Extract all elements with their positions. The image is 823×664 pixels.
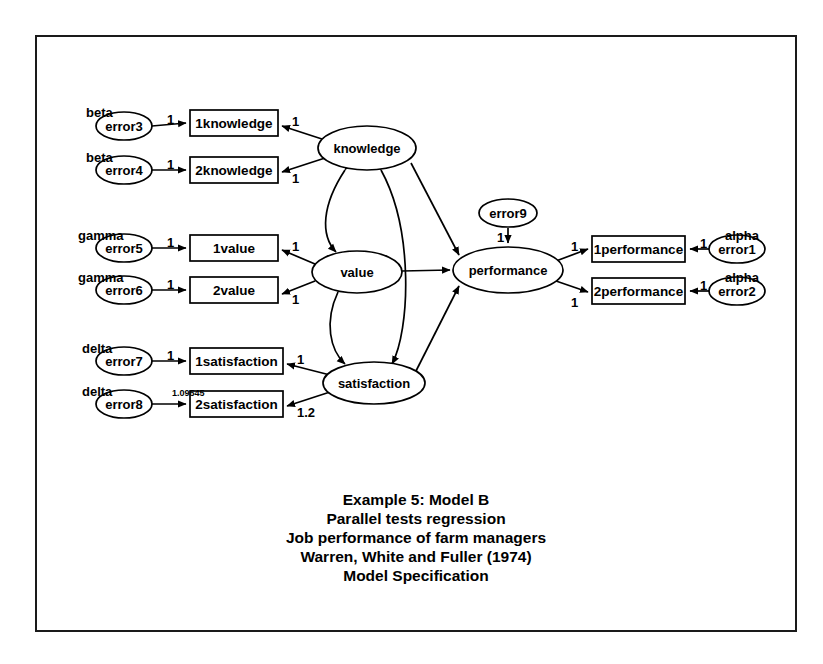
weight-label-w-v1: 1 [292,239,299,254]
weight-label-w-p1: 1 [571,239,578,254]
greek-label-error2: alpha [725,270,759,285]
weight-label-w-error3: 1 [167,112,174,127]
edge-performance-to-2performance [556,281,588,292]
weight-label-w-error6: 1 [167,277,174,292]
latent-label-knowledge: knowledge [333,141,400,156]
edge-satisfaction-to-2satisfaction [287,392,330,406]
weight-label-w-error9: 1 [497,230,504,245]
weight-label-w-error4: 1 [167,157,174,172]
indicator-label-1performance: 1performance [594,242,683,257]
edge-knowledge-to-1knowledge [282,126,325,140]
error-label-error1: error1 [718,242,756,257]
weight-label-w-error2: 1 [700,278,707,293]
edge-knowledge-to-2knowledge [282,158,325,172]
error-label-error9: error9 [489,206,527,221]
greek-label-error7: delta [82,341,112,356]
greek-label-error8: delta [82,384,112,399]
greek-label-error3: beta [86,105,113,120]
indicator-label-2value: 2value [213,283,255,298]
weight-label-w-k1: 1 [292,114,299,129]
weight-label-w-error5: 1 [167,235,174,250]
caption-line: Model Specification [35,566,797,585]
indicator-label-2performance: 2performance [594,284,683,299]
edge-satisfaction-to-1satisfaction [287,364,330,375]
arc-value-satisfaction [330,292,345,364]
indicator-label-2satisfaction: 2satisfaction [195,397,278,412]
arc-knowledge-value [326,170,345,252]
latent-label-performance: performance [469,263,548,278]
greek-label-error4: beta [86,150,113,165]
weight-label-w-s1: 1 [297,352,304,367]
greek-label-error5: gamma [78,228,124,243]
error-label-error2: error2 [718,284,756,299]
diagram-caption: Example 5: Model B Parallel tests regres… [35,490,797,585]
weight-label-w-error7: 1 [167,348,174,363]
weight-label-w-v2: 1 [292,292,299,307]
greek-label-error1: alpha [725,228,759,243]
latent-label-satisfaction: satisfaction [338,376,410,391]
caption-line: Warren, White and Fuller (1974) [35,547,797,566]
weight-label-w-k2: 1 [292,171,299,186]
indicator-label-1value: 1value [213,241,255,256]
weight-label-w-s2: 1.2 [297,405,315,420]
edge-value-to-performance [402,270,450,271]
weight-label-w-error1: 1 [700,236,707,251]
diagram-canvas: 1knowledge2knowledge1value2value1satisfa… [0,0,823,664]
latent-label-value: value [340,265,373,280]
greek-label-error6: gamma [78,270,124,285]
weight-label-w-error8: 1.09545 [172,388,205,398]
indicator-label-2knowledge: 2knowledge [195,163,272,178]
edge-satisfaction-to-performance [416,286,459,371]
indicator-label-1satisfaction: 1satisfaction [195,354,278,369]
edge-knowledge-to-performance [411,163,459,255]
indicator-label-1knowledge: 1knowledge [195,116,272,131]
error-label-error3: error3 [105,119,143,134]
caption-line: Parallel tests regression [35,509,797,528]
caption-line: Example 5: Model B [35,490,797,509]
caption-line: Job performance of farm managers [35,528,797,547]
weight-label-w-p2: 1 [571,295,578,310]
